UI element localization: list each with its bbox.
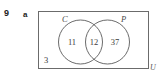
region-p-only-value: 37 <box>111 37 120 47</box>
region-intersection-value: 12 <box>90 37 99 47</box>
venn-diagram-canvas: C P 11 12 37 3 U <box>0 0 164 82</box>
region-c-only-value: 11 <box>68 37 76 47</box>
set-p-label: P <box>120 14 126 24</box>
universal-set-label: U <box>150 63 157 72</box>
set-c-label: C <box>62 14 68 24</box>
region-outside-value: 3 <box>44 55 48 65</box>
venn-diagram-figure: 9 a C P 11 12 37 3 U <box>0 0 164 82</box>
